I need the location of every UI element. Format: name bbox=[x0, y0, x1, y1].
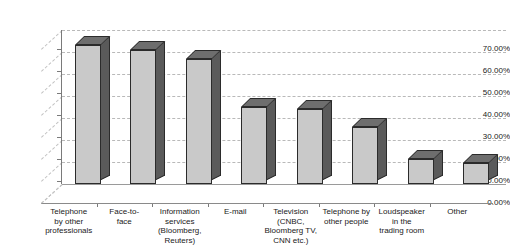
y-axis-tick-label: 50.00% bbox=[458, 89, 510, 97]
y-axis-line bbox=[61, 30, 62, 184]
depth-connector bbox=[41, 74, 63, 94]
depth-connector bbox=[41, 30, 63, 50]
bar-side-face bbox=[378, 118, 387, 180]
x-axis-label-line: in the bbox=[369, 217, 435, 227]
gridline bbox=[62, 74, 506, 75]
bar-side-face bbox=[212, 50, 221, 180]
y-axis-tick-label: 60.00% bbox=[458, 67, 510, 75]
x-axis-tick-label: Other bbox=[424, 207, 490, 217]
x-axis-label-line: professionals bbox=[36, 226, 102, 236]
y-axis-tick-label: 70.00% bbox=[458, 45, 510, 53]
x-axis-label-line: Reuters) bbox=[147, 236, 213, 245]
gridline bbox=[62, 140, 506, 141]
x-axis-label-line: Other bbox=[424, 207, 490, 217]
floor-front-edge bbox=[41, 203, 493, 204]
bar-column bbox=[408, 159, 434, 184]
gridline bbox=[62, 96, 506, 97]
left-wall-edge bbox=[41, 184, 62, 203]
x-axis-label-line: CNN etc.) bbox=[258, 236, 324, 245]
bar-front-face bbox=[408, 159, 434, 184]
bar-front-face bbox=[241, 107, 267, 184]
gridline bbox=[62, 52, 506, 53]
bar-front-face bbox=[75, 45, 101, 184]
gridline bbox=[62, 30, 506, 31]
bar-front-face bbox=[463, 163, 489, 184]
bar-front-face bbox=[297, 109, 323, 184]
bar-front-face bbox=[130, 50, 156, 184]
bar-column bbox=[186, 59, 212, 184]
bar-column bbox=[297, 109, 323, 184]
bar-side-face bbox=[156, 41, 165, 180]
bar-column bbox=[241, 107, 267, 184]
bar-front-face bbox=[186, 59, 212, 184]
depth-connector bbox=[41, 118, 63, 138]
y-axis-tick-label: 40.00% bbox=[458, 111, 510, 119]
x-axis-label-line: Bloomberg TV, bbox=[258, 226, 324, 236]
depth-connector bbox=[41, 96, 63, 116]
depth-connector bbox=[41, 162, 63, 182]
bar-column bbox=[75, 45, 101, 184]
bar-front-face bbox=[352, 127, 378, 184]
x-axis-label-line: services bbox=[147, 217, 213, 227]
y-axis-tick-label: 30.00% bbox=[458, 133, 510, 141]
x-axis-label-line: trading room bbox=[369, 226, 435, 236]
depth-connector bbox=[41, 52, 63, 72]
depth-connector bbox=[41, 140, 63, 160]
x-axis-label-line: (Bloomberg, bbox=[147, 226, 213, 236]
bar-side-face bbox=[101, 37, 110, 180]
gridline bbox=[62, 118, 506, 119]
bar-column bbox=[130, 50, 156, 184]
bar-side-face bbox=[323, 101, 332, 180]
bar-column bbox=[463, 163, 489, 184]
floor-back-edge bbox=[62, 184, 506, 185]
bar-column bbox=[352, 127, 378, 184]
bar-side-face bbox=[267, 99, 276, 180]
